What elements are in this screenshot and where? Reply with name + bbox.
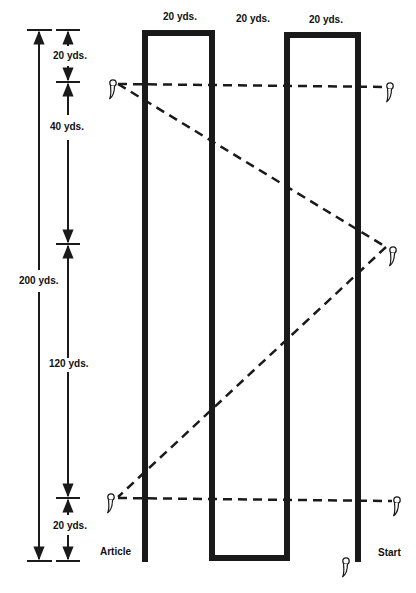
- start-label: Start: [378, 547, 401, 559]
- total-dimension: [27, 30, 52, 561]
- dashed-search-route: [118, 84, 392, 501]
- segment-1-label: 20 yds.: [53, 50, 87, 62]
- segment-3-label: 120 yds.: [49, 358, 88, 370]
- segment-2-label: 40 yds.: [50, 121, 84, 133]
- flag-bottom-left-icon: [108, 494, 115, 513]
- flag-start-icon: [343, 558, 350, 577]
- search-pattern-diagram: [0, 0, 416, 593]
- segment-4-label: 20 yds.: [53, 520, 87, 532]
- article-label: Article: [100, 546, 131, 558]
- lane-3-width-label: 20 yds.: [309, 14, 343, 26]
- track-path: [145, 33, 358, 562]
- segment-dimensions: [56, 30, 80, 561]
- flag-top-right-icon: [387, 83, 394, 102]
- flag-mid-right-icon: [390, 247, 397, 266]
- flag-bottom-right-icon: [394, 497, 401, 516]
- flag-top-left-icon: [110, 80, 117, 99]
- lane-1-width-label: 20 yds.: [163, 11, 197, 23]
- lane-2-width-label: 20 yds.: [236, 13, 270, 25]
- total-distance-label: 200 yds.: [19, 275, 58, 287]
